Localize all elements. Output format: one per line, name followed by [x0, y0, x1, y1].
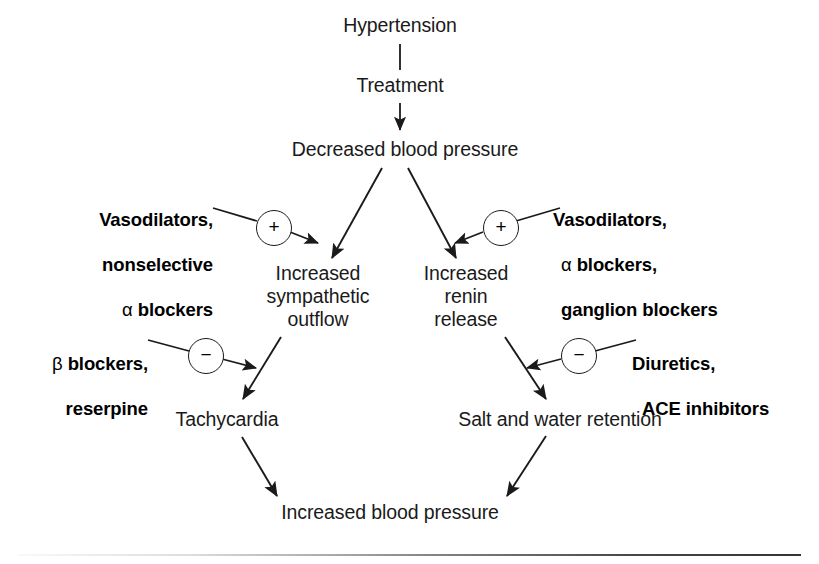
edge-vasodilators-to-plus-left — [213, 208, 257, 221]
drug-line-1: Vasodilators, — [99, 209, 213, 232]
drug-line-2: α blockers, — [553, 254, 718, 277]
drug-label-vasodilators-nonselective-alpha-blockers: Vasodilators, nonselective α blockers — [99, 186, 213, 344]
alpha-symbol: α — [122, 299, 133, 320]
edge-plus-right-to-renin — [455, 232, 483, 243]
alpha-symbol: α — [561, 254, 572, 275]
bottom-divider-rule — [18, 554, 801, 556]
node-tachycardia: Tachycardia — [176, 408, 279, 431]
edge-tachycardia-increased-bp — [242, 437, 277, 496]
node-increased-sympathetic-outflow: Increased sympathetic outflow — [267, 262, 370, 331]
edge-decreased-bp-sympathetic — [332, 168, 382, 258]
drug-line-2: reserpine — [52, 398, 148, 421]
drug-line-3: α blockers — [99, 299, 213, 322]
drug-label-vasodilators-alpha-ganglion-blockers: Vasodilators, α blockers, ganglion block… — [553, 186, 718, 344]
drug-line-1: Diuretics, — [632, 353, 769, 376]
plus-sign-sympathetic: + — [256, 210, 292, 246]
node-hypertension: Hypertension — [343, 14, 457, 37]
drug-line-1-text: blockers, — [63, 353, 148, 374]
plus-sign-renin: + — [483, 210, 519, 246]
node-decreased-blood-pressure: Decreased blood pressure — [292, 138, 518, 161]
edge-renin-salt-water — [505, 337, 546, 399]
edge-minus-left-to-tachycardia — [222, 359, 256, 368]
hypertension-treatment-diagram: Hypertension Treatment Decreased blood p… — [0, 0, 819, 564]
drug-label-beta-blockers-reserpine: β blockers, reserpine — [52, 330, 148, 443]
drug-line-3: ganglion blockers — [553, 299, 718, 322]
drug-label-diuretics-ace-inhibitors: Diuretics, ACE inhibitors — [632, 330, 769, 443]
edge-plus-left-to-sympathetic — [290, 232, 318, 243]
drug-line-2: nonselective — [99, 254, 213, 277]
node-increased-blood-pressure: Increased blood pressure — [281, 501, 499, 524]
drug-line-3-text: blockers — [133, 299, 213, 320]
node-increased-renin-release: Increased renin release — [424, 262, 509, 331]
edge-decreased-bp-renin — [408, 168, 456, 258]
edge-minus-right-to-salt-water — [527, 359, 561, 368]
minus-sign-salt-water: − — [561, 338, 597, 374]
drug-line-2: ACE inhibitors — [632, 398, 769, 421]
edge-salt-water-increased-bp — [507, 436, 546, 496]
drug-line-2-text: blockers, — [572, 254, 657, 275]
beta-symbol: β — [52, 353, 63, 374]
drug-line-1: β blockers, — [52, 353, 148, 376]
minus-sign-tachycardia: − — [188, 338, 224, 374]
node-treatment: Treatment — [356, 74, 443, 97]
drug-line-1: Vasodilators, — [553, 209, 718, 232]
edge-sympathetic-tachycardia — [243, 337, 281, 399]
